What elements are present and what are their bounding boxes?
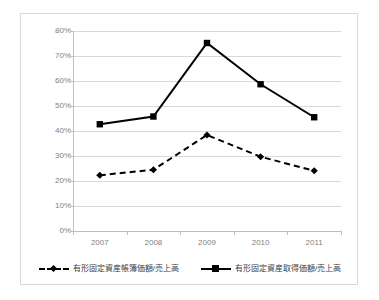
series-lines: [73, 31, 341, 231]
series-marker-square: [311, 114, 317, 120]
series-marker-square: [204, 40, 210, 46]
y-axis-tick-label: 50%: [23, 102, 71, 110]
legend-entry-acquisition-cost: 有形固定資産取得価額/売上高: [201, 264, 341, 274]
y-axis-tick-label: 20%: [23, 177, 71, 185]
x-axis-tick-label: 2008: [133, 238, 173, 247]
legend-label-book-value: 有形固定資産帳簿価額/売上高: [73, 264, 179, 274]
y-axis-tick-label: 80%: [23, 27, 71, 35]
series-marker-square: [97, 121, 103, 127]
x-axis-tick-label: 2007: [80, 238, 120, 247]
x-axis-tick-label: 2011: [294, 238, 334, 247]
series-marker-square: [150, 113, 156, 119]
y-axis-tick-label: 60%: [23, 77, 71, 85]
y-axis-tick-label: 40%: [23, 127, 71, 135]
x-axis-tick-mark: [127, 231, 128, 235]
y-axis-tick-label: 70%: [23, 52, 71, 60]
y-axis-tick-label: 0%: [23, 227, 71, 235]
x-axis-tick-mark: [180, 231, 181, 235]
series-marker-diamond: [257, 153, 264, 160]
chart-legend: 有形固定資産帳簿価額/売上高 有形固定資産取得価額/売上高: [39, 259, 341, 279]
plot-area: [73, 31, 341, 231]
series-marker-diamond: [150, 166, 157, 173]
chart-frame: 0%10%20%30%40%50%60%70%80% 2007200820092…: [20, 13, 358, 285]
y-axis-tick-labels: 0%10%20%30%40%50%60%70%80%: [21, 14, 71, 286]
series-line: [100, 135, 314, 175]
legend-marker-solid-square-icon: [201, 264, 231, 274]
legend-marker-dashed-diamond-icon: [39, 264, 69, 274]
x-axis-line: [73, 231, 342, 232]
x-axis-tick-mark: [341, 231, 342, 235]
series-marker-diamond: [96, 172, 103, 179]
x-axis-tick-label: 2010: [241, 238, 281, 247]
legend-label-acquisition-cost: 有形固定資産取得価額/売上高: [235, 264, 341, 274]
x-axis-tick-label: 2009: [187, 238, 227, 247]
x-axis-tick-mark: [73, 231, 74, 235]
chart-plot-wrapper: 0%10%20%30%40%50%60%70%80% 2007200820092…: [21, 14, 359, 286]
series-marker-square: [257, 81, 263, 87]
y-axis-tick-label: 30%: [23, 152, 71, 160]
legend-entry-book-value: 有形固定資産帳簿価額/売上高: [39, 264, 179, 274]
series-marker-diamond: [311, 167, 318, 174]
series-line: [100, 43, 314, 124]
x-axis-tick-mark: [287, 231, 288, 235]
y-axis-tick-label: 10%: [23, 202, 71, 210]
x-axis-tick-mark: [234, 231, 235, 235]
